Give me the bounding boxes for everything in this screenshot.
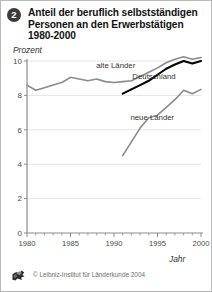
svg-text:0: 0: [18, 229, 23, 238]
figure-header: 2 Anteil der beruflich selbstständigen P…: [1, 1, 212, 42]
page-title: Anteil der beruflich selbstständigen Per…: [28, 7, 207, 42]
svg-text:neue Länder: neue Länder: [130, 113, 174, 122]
svg-text:6: 6: [18, 126, 23, 135]
copyright-text: © Leibniz-Institut für Länderkunde 2004: [33, 271, 145, 278]
x-axis-label: Jahr: [169, 254, 185, 264]
leibniz-institut-logo-icon: [11, 267, 27, 282]
figure-panel: 2 Anteil der beruflich selbstständigen P…: [0, 0, 212, 292]
svg-text:1995: 1995: [149, 239, 166, 248]
figure-footer: © Leibniz-Institut für Länderkunde 2004: [11, 267, 145, 282]
svg-text:Deutschland: Deutschland: [132, 72, 175, 81]
line-chart: 024681019801985199019952000alte LänderDe…: [1, 53, 212, 253]
svg-text:8: 8: [18, 91, 23, 100]
svg-text:2000: 2000: [193, 239, 210, 248]
svg-text:1990: 1990: [106, 239, 123, 248]
svg-text:10: 10: [13, 57, 22, 66]
chart-plot-area: 024681019801985199019952000alte LänderDe…: [1, 53, 212, 253]
svg-text:1980: 1980: [19, 239, 36, 248]
svg-text:2: 2: [18, 194, 23, 203]
svg-text:alte Länder: alte Länder: [96, 61, 135, 70]
svg-text:1985: 1985: [62, 239, 79, 248]
figure-number-badge: 2: [7, 8, 21, 22]
svg-text:4: 4: [18, 160, 23, 169]
